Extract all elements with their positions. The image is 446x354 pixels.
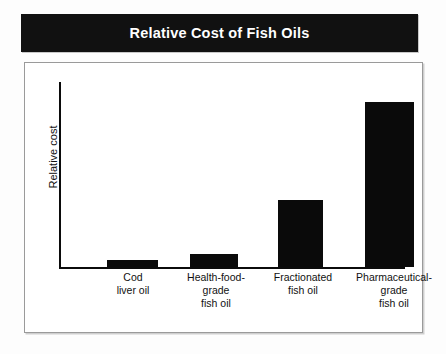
x-axis-label-line: grade	[173, 284, 259, 297]
x-axis-label-cod-liver-oil: Codliver oil	[90, 271, 176, 297]
bar-slot	[278, 82, 323, 267]
x-axis-line	[59, 267, 405, 269]
chart-title-banner: Relative Cost of Fish Oils	[21, 14, 418, 52]
x-axis-labels: Codliver oil Health-food-gradefish oil F…	[61, 271, 411, 331]
bar-pharmaceutical-grade-fish-oil	[365, 102, 414, 267]
bar-fractionated-fish-oil	[278, 200, 323, 267]
x-axis-label-line: grade	[344, 284, 444, 297]
x-axis-label-line: fish oil	[257, 284, 349, 297]
x-axis-label-line: Health-food-	[173, 271, 259, 284]
x-axis-label-line: Fractionated	[257, 271, 349, 284]
x-axis-label-line: Pharmaceutical-	[344, 271, 444, 284]
plot-area	[61, 82, 405, 267]
x-axis-label-line: fish oil	[173, 297, 259, 310]
bar-health-food-grade-fish-oil	[190, 254, 238, 267]
x-axis-label-line: liver oil	[90, 284, 176, 297]
x-axis-label-line: Cod	[90, 271, 176, 284]
x-axis-label-pharmaceutical-grade-fish-oil: Pharmaceutical-gradefish oil	[344, 271, 444, 310]
x-axis-label-line: fish oil	[344, 297, 444, 310]
chart-frame: Relative cost Codliver oil Health-food-g…	[24, 62, 423, 333]
page-title: Relative Cost of Fish Oils	[21, 14, 418, 52]
bar-slot	[365, 82, 414, 267]
bar-slot	[107, 82, 158, 267]
x-axis-label-fractionated-fish-oil: Fractionatedfish oil	[257, 271, 349, 297]
y-axis-title: Relative cost	[47, 97, 59, 217]
x-axis-label-health-food-grade-fish-oil: Health-food-gradefish oil	[173, 271, 259, 310]
bar-cod-liver-oil	[107, 260, 158, 267]
bar-slot	[190, 82, 238, 267]
